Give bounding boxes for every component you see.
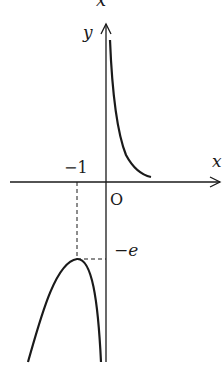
origin-label: O xyxy=(110,190,123,209)
x-tick-label-neg1: −1 xyxy=(64,158,88,177)
y-tick-label-neg-e: −e xyxy=(114,240,138,260)
y-axis-label: y xyxy=(82,22,93,42)
curve-left-branch xyxy=(28,259,101,362)
function-graph: x x y O −1 −e xyxy=(0,0,222,386)
top-cropped-label: x xyxy=(96,0,106,10)
x-axis-label: x xyxy=(212,151,222,171)
curve-right-branch xyxy=(110,40,151,177)
graph-canvas: x x y O −1 −e xyxy=(0,0,222,386)
